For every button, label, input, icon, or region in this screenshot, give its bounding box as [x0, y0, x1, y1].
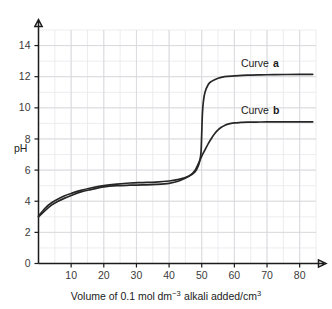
x-axis-tick-label: 20 — [98, 269, 110, 281]
y-axis-line — [35, 20, 42, 264]
x-axis-tick-label: 80 — [294, 269, 306, 281]
curve-label-a: Curvea — [241, 57, 279, 69]
x-title-lead: Volume of 0.1 — [71, 290, 135, 302]
x-title-dm-unit: dm — [157, 290, 172, 302]
y-axis-tick-label: 2 — [25, 226, 31, 238]
y-axis-label: pH — [14, 142, 27, 154]
y-axis-tick-label: 6 — [25, 164, 31, 176]
curve-label-text: Curve — [241, 57, 269, 69]
x-axis-tick-labels: 1020304050607080 — [65, 269, 305, 281]
curve-label-id: a — [273, 57, 279, 69]
x-axis-line — [39, 260, 327, 267]
x-axis-title: Volume of 0.1moldm−3alkali added/cm3 — [71, 289, 261, 303]
x-axis-tick-label: 10 — [65, 269, 77, 281]
curve-label-id: b — [273, 104, 279, 116]
axes — [35, 20, 327, 268]
chart-canvas: 02468101214 1020304050607080 pH CurveaCu… — [0, 0, 332, 309]
curve-a — [39, 74, 313, 216]
x-axis-tick-label: 70 — [261, 269, 273, 281]
x-axis-tick-label: 40 — [163, 269, 175, 281]
y-axis-tick-label: 10 — [19, 101, 31, 113]
y-axis-tick-label: 12 — [19, 70, 31, 82]
x-title-mid: alkali added/cm — [184, 290, 257, 302]
y-axis-tick-label: 0 — [25, 257, 31, 269]
curve-b — [39, 122, 313, 217]
x-axis-tick-label: 50 — [196, 269, 208, 281]
x-title-cm-exponent: 3 — [257, 289, 261, 298]
y-axis-tick-labels: 02468101214 — [19, 39, 31, 269]
x-axis-tick-label: 30 — [131, 269, 143, 281]
x-title-mol-unit: mol — [138, 290, 155, 302]
x-axis-tick-label: 60 — [229, 269, 241, 281]
curve-label-b: Curveb — [241, 104, 279, 116]
y-axis-tick-label: 4 — [25, 195, 31, 207]
curve-label-text: Curve — [241, 104, 269, 116]
y-axis-tick-label: 14 — [19, 39, 31, 51]
titration-curve-chart: 02468101214 1020304050607080 pH CurveaCu… — [0, 0, 332, 309]
curve-paths — [39, 74, 313, 216]
x-title-dm-exponent: −3 — [172, 289, 181, 298]
curve-labels: CurveaCurveb — [241, 57, 279, 116]
